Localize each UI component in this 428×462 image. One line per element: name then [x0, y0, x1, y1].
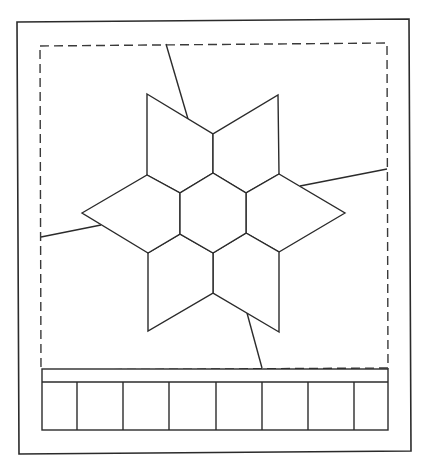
quilt-block-diagram	[0, 0, 428, 462]
rhombus-right	[246, 174, 345, 252]
strip-outline	[42, 369, 388, 430]
connector-line-left	[41, 225, 101, 237]
rhombus-bottom-left	[148, 234, 213, 331]
rhombus-left	[82, 175, 180, 253]
rhombus-bottom-right	[213, 233, 279, 332]
six-point-star	[82, 94, 345, 332]
rhombus-top-left	[147, 94, 213, 193]
connector-line-right	[300, 169, 387, 186]
bottom-cell-strip	[42, 369, 388, 430]
